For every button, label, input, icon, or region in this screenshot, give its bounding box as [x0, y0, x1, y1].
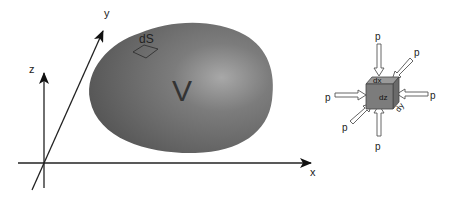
pressure-arrow-top: [374, 44, 384, 76]
z-axis-label: z: [29, 63, 35, 75]
y-axis-label: y: [104, 7, 110, 19]
ds-label: dS: [139, 32, 154, 46]
pressure-label-top-right: p: [414, 47, 420, 58]
pressure-arrow-left: [335, 90, 366, 100]
dz-label: dz: [379, 93, 387, 102]
volume-label: V: [172, 74, 192, 107]
pressure-arrow-right: [397, 89, 428, 99]
pressure-label-bottom-left: p: [342, 122, 348, 133]
pressure-label-left: p: [325, 92, 331, 103]
pressure-label-right: p: [430, 90, 436, 101]
pressure-arrow-bottom: [374, 105, 384, 136]
fluid-element: dx dz dy p p p p p p: [325, 31, 436, 152]
pressure-label-bottom: p: [375, 141, 381, 152]
x-axis-label: x: [310, 166, 316, 178]
y-axis: [32, 31, 103, 190]
pressure-label-top: p: [375, 31, 381, 42]
dx-label: dx: [373, 76, 381, 85]
fluid-volume-diagram: dS V x y z: [0, 0, 452, 198]
